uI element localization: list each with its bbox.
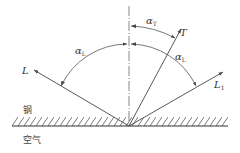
angle-arc-reflected-T bbox=[131, 26, 175, 38]
label-L1: L1 bbox=[213, 79, 224, 91]
label-alpha-L-right: αL bbox=[175, 51, 186, 63]
label-air: 空气 bbox=[23, 134, 41, 145]
angle-arc-reflected-L bbox=[131, 44, 196, 86]
label-alpha-T: αT bbox=[146, 15, 157, 27]
label-steel: 钢 bbox=[23, 104, 32, 115]
reflection-diagram: L L1 T αL αL αT 钢 空气 bbox=[0, 0, 240, 153]
angle-arc-incident bbox=[61, 44, 127, 86]
label-L: L bbox=[21, 65, 29, 76]
label-alpha-L-left: αL bbox=[75, 45, 86, 57]
steel-hatching bbox=[12, 117, 228, 126]
label-T: T bbox=[180, 27, 188, 38]
